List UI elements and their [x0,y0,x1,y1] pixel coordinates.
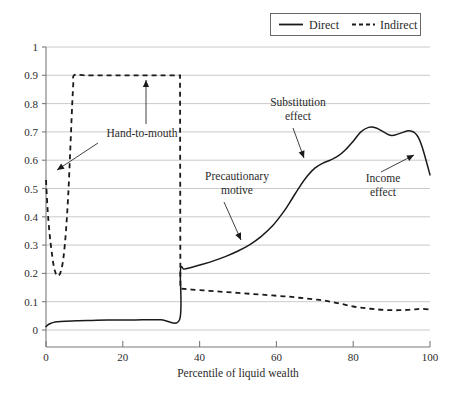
annotation-substitution-effect: Substitutioneffect [270,96,326,159]
x-tick-label: 80 [348,351,360,363]
annotation-arrow-head [143,80,149,87]
x-tick-label: 0 [43,351,49,363]
x-tick-label: 60 [271,351,283,363]
y-tick-marks [42,47,46,330]
y-tick-label: 0.9 [24,69,38,81]
y-tick-label: 0.5 [24,183,38,195]
y-tick-label: 0.8 [24,98,38,110]
line-chart-figure: 00.10.20.30.40.50.60.70.80.91 0204060801… [0,0,459,396]
x-axis-title: Percentile of liquid wealth [177,367,299,380]
annotation-label: effect [370,186,397,198]
annotation-arrow-head [55,164,64,173]
y-tick-label: 0.2 [24,267,38,279]
annotation-label: motive [221,184,253,196]
x-tick-label: 100 [422,351,439,363]
y-tick-label: 1 [33,41,39,53]
annotation-hand-to-mouth: Hand-to-mouth [55,80,177,173]
y-tick-label: 0.3 [24,239,38,251]
y-tick-labels: 00.10.20.30.40.50.60.70.80.91 [24,41,38,336]
annotation-label: Hand-to-mouth [107,127,178,139]
y-tick-label: 0 [33,324,39,336]
y-tick-label: 0.7 [24,126,38,138]
annotation-label: Precautionary [205,170,269,183]
annotation-arrow-head [299,150,307,159]
x-tick-marks [46,341,430,347]
x-tick-label: 20 [117,351,129,363]
legend: Direct Indirect [271,14,421,36]
annotation-income-effect: Incomeeffect [366,152,416,198]
x-tick-labels: 020406080100 [43,351,439,363]
y-tick-label: 0.4 [24,211,38,223]
series-direct-path [46,127,430,327]
annotation-arrow-head [406,152,415,161]
legend-label-indirect: Indirect [380,18,418,32]
annotation-label: Income [366,172,400,184]
annotation-label: Substitution [270,96,326,108]
legend-label-direct: Direct [309,18,340,32]
annotation-label: effect [285,110,312,122]
x-tick-label: 40 [194,351,206,363]
annotation-arrow-head [235,232,244,241]
annotation-arrow-line [57,143,98,170]
y-tick-label: 0.1 [24,296,38,308]
annotation-precautionary-motive: Precautionarymotive [205,170,269,241]
chart-container: 00.10.20.30.40.50.60.70.80.91 0204060801… [0,0,459,396]
svg-text:Percentile of liquid wealth: Percentile of liquid wealth [177,367,299,380]
series-line-direct [46,127,430,327]
y-tick-label: 0.6 [24,154,38,166]
